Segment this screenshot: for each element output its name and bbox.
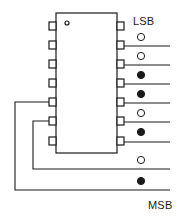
right-pin-11: [117, 79, 124, 87]
right-pin-10: [117, 98, 124, 106]
right-pin-8: [117, 137, 124, 145]
left-pin-1: [49, 22, 56, 30]
left-pin-7: [49, 137, 56, 145]
right-pin-14: [117, 22, 124, 30]
left-pin-2: [49, 41, 56, 49]
left-pin-5: [49, 98, 56, 106]
bit-open-circle-icon: [137, 52, 144, 59]
msb-label: MSB: [148, 199, 172, 211]
lsb-label: LSB: [133, 15, 154, 27]
ic-bit-diagram: [0, 0, 178, 219]
bit-filled-circle-icon: [137, 177, 144, 184]
bit-open-circle-icon: [137, 109, 144, 116]
right-pin-9: [117, 117, 124, 125]
bit-open-circle-icon: [137, 33, 144, 40]
bit-filled-circle-icon: [137, 90, 144, 97]
left-pin-3: [49, 60, 56, 68]
left-pin-4: [49, 79, 56, 87]
bit-open-circle-icon: [137, 156, 144, 163]
right-pin-13: [117, 41, 124, 49]
bit-indicators: [137, 33, 144, 184]
chip-body: [56, 13, 117, 153]
bit-filled-circle-icon: [137, 128, 144, 135]
bit-filled-circle-icon: [137, 71, 144, 78]
ic-chip: [56, 13, 117, 153]
left-pin-6: [49, 117, 56, 125]
pin1-marker-icon: [65, 21, 69, 25]
right-pin-12: [117, 60, 124, 68]
